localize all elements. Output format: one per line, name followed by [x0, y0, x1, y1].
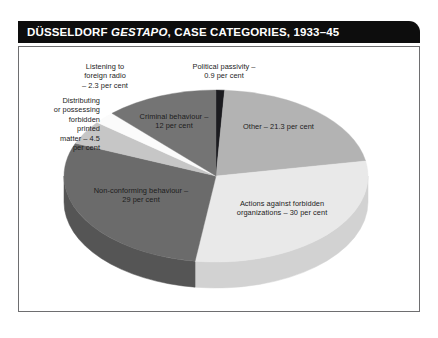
slice-label-other: Other – 21.3 per cent — [243, 122, 347, 131]
page-title: DÜSSELDORF GESTAPO, CASE CATEGORIES, 193… — [18, 26, 339, 38]
title-prefix: DÜSSELDORF — [27, 26, 111, 38]
slice-label-criminal-behaviour: Criminal behaviour – 12 per cent — [126, 112, 222, 131]
title-suffix: , CASE CATEGORIES, 1933–45 — [168, 26, 340, 38]
chart-title-bar: DÜSSELDORF GESTAPO, CASE CATEGORIES, 193… — [18, 21, 420, 43]
slice-label-political-passivity: Political passivity – 0.9 per cent — [168, 62, 280, 81]
slice-label-actions-against-forbidden-organizations: Actions against forbidden organizations … — [214, 199, 350, 218]
slice-label-non-conforming-behaviour: Non-conforming behaviour – 29 per cent — [70, 186, 212, 205]
slice-label-listening-to-foreign-radio: Listening to foreign radio – 2.3 per cen… — [62, 62, 148, 90]
figure-root: DÜSSELDORF GESTAPO, CASE CATEGORIES, 193… — [0, 0, 438, 338]
title-italic-word: GESTAPO — [111, 26, 167, 38]
slice-label-distributing-or-possessing-forbidden-printed-matter: Distributing or possessing forbidden pri… — [22, 96, 100, 152]
